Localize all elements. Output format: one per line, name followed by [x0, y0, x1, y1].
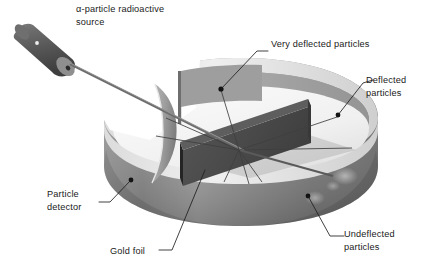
label-very-deflected-particles: Very deflected particles — [271, 38, 370, 51]
label-alpha-source: α-particle radioactive source — [76, 3, 164, 28]
ring-gap-back-panel — [181, 65, 262, 107]
source-highlight-dot — [35, 41, 39, 45]
ring-cut-face-far — [178, 71, 181, 124]
label-gold-foil: Gold foil — [110, 245, 145, 258]
gold-foil-far-edge — [308, 99, 311, 143]
ring-specular-mid — [326, 181, 340, 191]
label-particle-detector: Particle detector — [47, 188, 81, 213]
label-deflected-particles: Deflected particles — [366, 74, 406, 99]
alpha-source-cylinder — [12, 22, 79, 80]
label-undeflected-particles: Undeflected particles — [344, 228, 395, 253]
